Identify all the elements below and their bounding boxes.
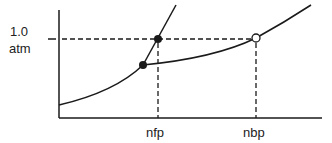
y-label-value: 1.0 [10,24,28,39]
x-label-nbp: nbp [243,125,265,140]
x-label-nfp: nfp [146,125,164,140]
triple-point-dot [139,61,147,69]
phase-diagram: 1.0 atm nfp nbp [0,0,332,143]
vaporization-curve [143,5,311,65]
normal-freezing-point-dot [154,35,162,43]
fusion-curve [143,5,176,65]
y-label-unit: atm [9,41,31,56]
sublimation-curve [59,65,143,105]
normal-boiling-point-dot [252,34,260,42]
